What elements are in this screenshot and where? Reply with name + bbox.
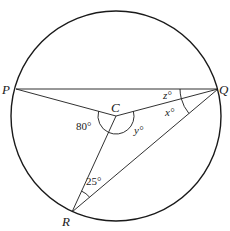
point-label-q: Q xyxy=(219,82,229,97)
angle-arc-crq xyxy=(82,191,90,197)
radius-pc xyxy=(16,89,116,116)
angle-label-crq: 25° xyxy=(86,175,101,187)
point-label-c: C xyxy=(111,100,120,115)
point-label-p: P xyxy=(1,82,10,97)
angle-arc-cqr xyxy=(181,99,189,114)
angle-label-cqr: x° xyxy=(164,106,175,118)
angle-label-rcq: y° xyxy=(133,124,144,136)
angle-label-pqc: z° xyxy=(162,89,172,101)
point-label-r: R xyxy=(61,214,70,229)
angle-arc-pcr xyxy=(98,111,109,132)
chord-rq xyxy=(72,89,218,212)
angle-label-pcr: 80° xyxy=(76,120,91,132)
circle-diagram: P Q C R 80° y° z° x° 25° xyxy=(0,0,230,231)
angle-arc-pqc xyxy=(180,89,181,99)
